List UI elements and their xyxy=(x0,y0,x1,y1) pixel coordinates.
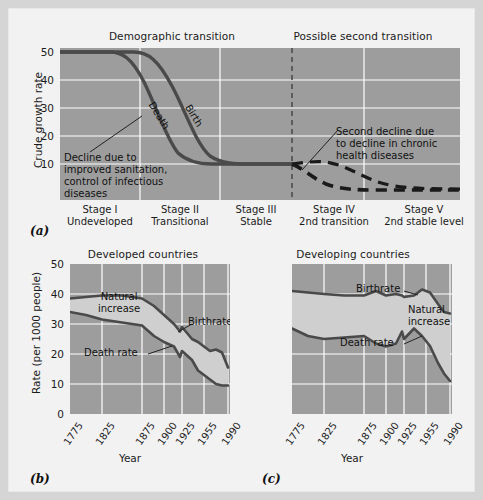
panel-b-deathrate-label: Death rate xyxy=(84,347,138,359)
panel-c-natural-increase-label: Natural increase xyxy=(408,304,450,328)
panel-a-letter: (a) xyxy=(30,224,49,238)
panel-a-title-right: Possible second transition xyxy=(263,30,463,42)
stage-3-desc: Stable xyxy=(220,216,292,228)
panel-b: Developed countries Rate (per 1000 peopl… xyxy=(8,244,243,492)
panel-a-ytick-30: 30 xyxy=(28,102,54,114)
panel-b-plot-area: Natural increase Birthrate Death rate xyxy=(70,264,230,414)
stage-2-desc: Transitional xyxy=(140,216,220,228)
panel-a-ytick-40: 40 xyxy=(28,74,54,86)
panel-a-ytick-10: 10 xyxy=(28,158,54,170)
panel-b-title: Developed countries xyxy=(58,248,228,260)
stage-1-name: Stage I xyxy=(60,204,140,216)
panel-b-letter: (b) xyxy=(30,472,50,486)
panel-c-letter: (c) xyxy=(262,472,281,486)
panel-a-right-annotation-line-2: to decline in chronic xyxy=(336,138,437,150)
panel-a-right-annotation-line-3: health diseases xyxy=(336,150,437,162)
panel-b-natural-increase-line-2: increase xyxy=(98,303,140,315)
stage-5-name: Stage V xyxy=(374,204,474,216)
panel-a-left-annotation-line-3: control of infectious xyxy=(64,176,167,188)
panel-a-ytick-50: 50 xyxy=(28,46,54,58)
panel-c-x-axis-title: Year xyxy=(322,452,382,464)
stage-4-desc: 2nd transition xyxy=(292,216,376,228)
stage-label-1: Stage I Undeveloped xyxy=(60,204,140,228)
stage-label-2: Stage II Transitional xyxy=(140,204,220,228)
stage-label-4: Stage IV 2nd transition xyxy=(292,204,376,228)
stage-label-3: Stage III Stable xyxy=(220,204,292,228)
stage-label-5: Stage V 2nd stable level xyxy=(374,204,474,228)
stage-3-name: Stage III xyxy=(220,204,292,216)
panel-b-ytick-10: 10 xyxy=(40,378,64,390)
panel-a-left-annotation-line-1: Decline due to xyxy=(64,152,167,164)
panel-a-death-projected-curve xyxy=(292,164,460,190)
panel-c-title: Developing countries xyxy=(258,248,448,260)
figure-frame: Demographic transition Possible second t… xyxy=(0,0,483,500)
panel-b-birthrate-label: Birthrate xyxy=(188,316,230,328)
panel-b-svg xyxy=(70,264,230,414)
panel-a-left-annotation: Decline due to improved sanitation, cont… xyxy=(64,152,167,200)
panel-a-left-annotation-leader xyxy=(90,116,142,152)
panel-a-title-left: Demographic transition xyxy=(72,30,272,42)
panel-c-natural-increase-line-2: increase xyxy=(408,316,450,328)
panel-c: Developing countries xyxy=(240,244,475,492)
panel-a-y-axis-title: Crude growth rate xyxy=(32,72,44,168)
panel-a-gridlines-vertical xyxy=(140,48,364,200)
panel-b-ytick-40: 40 xyxy=(40,288,64,300)
panel-b-ytick-0: 0 xyxy=(40,408,64,420)
panel-b-x-axis-title: Year xyxy=(100,452,160,464)
panel-b-natural-increase-label: Natural increase xyxy=(98,291,140,315)
stage-2-name: Stage II xyxy=(140,204,220,216)
panel-b-deathrate-label-leader xyxy=(148,346,172,354)
panel-a-left-annotation-line-2: improved sanitation, xyxy=(64,164,167,176)
panel-b-ytick-30: 30 xyxy=(40,318,64,330)
panel-c-deathrate-label: Death rate xyxy=(340,337,394,349)
panel-a-birth-projected-curve xyxy=(292,162,460,189)
figure-card: Demographic transition Possible second t… xyxy=(8,8,475,492)
panel-a-right-annotation-line-1: Second decline due xyxy=(336,126,437,138)
panel-a-right-annotation: Second decline due to decline in chronic… xyxy=(336,126,437,162)
panel-b-ytick-20: 20 xyxy=(40,348,64,360)
panel-a-ytick-20: 20 xyxy=(28,130,54,142)
panel-c-natural-increase-line-1: Natural xyxy=(408,304,450,316)
panel-b-natural-increase-line-1: Natural xyxy=(98,291,140,303)
panel-c-birthrate-label: Birthrate xyxy=(356,283,400,295)
panel-a-plot-area: Death Birth Decline due to improved sani… xyxy=(60,48,460,200)
panel-c-xtick-1775: 1775 xyxy=(275,420,307,459)
stage-5-desc: 2nd stable level xyxy=(374,216,474,228)
stage-4-name: Stage IV xyxy=(292,204,376,216)
panel-a: Demographic transition Possible second t… xyxy=(8,8,475,228)
panel-b-ytick-50: 50 xyxy=(40,258,64,270)
panel-a-left-annotation-line-4: diseases xyxy=(64,188,167,200)
panel-c-plot-area: Birthrate Natural increase Death rate xyxy=(292,264,452,414)
stage-1-desc: Undeveloped xyxy=(60,216,140,228)
panel-b-xtick-1775: 1775 xyxy=(53,420,85,459)
